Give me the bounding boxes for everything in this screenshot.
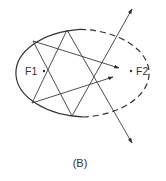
- figure-caption: (B): [73, 157, 88, 169]
- focus-f1-label: F1: [25, 65, 37, 77]
- ellipse-reflection-diagram: F1 F2 (B): [0, 0, 166, 181]
- focus-f1-dot: [43, 70, 45, 72]
- focus-f2-label: F2: [136, 65, 148, 77]
- focus-f2-dot: [130, 70, 132, 72]
